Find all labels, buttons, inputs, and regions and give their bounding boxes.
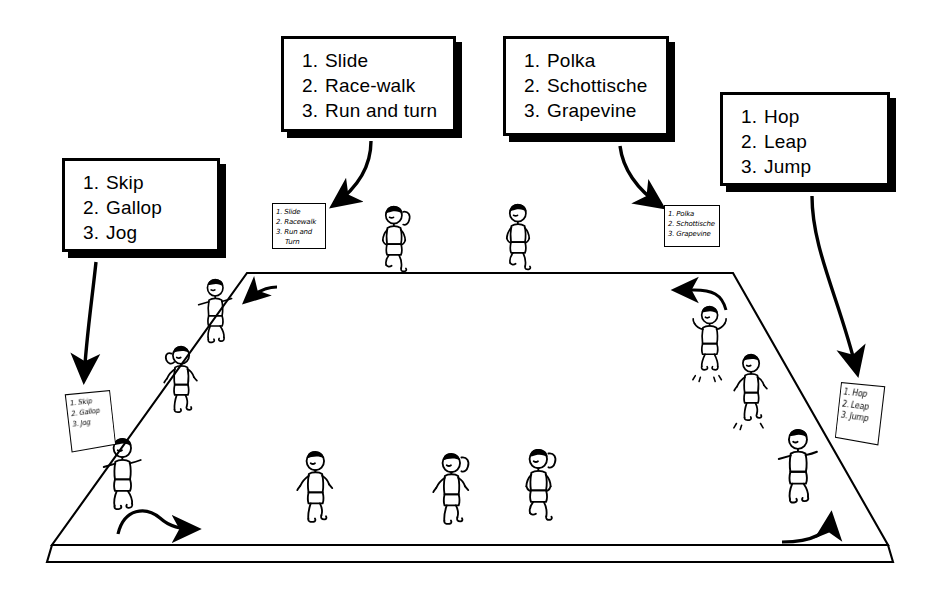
station-sign-back-right: 1. Polka 2. Schottische 3. Grapevine (664, 205, 720, 247)
callout-item-number: 3. (302, 98, 325, 123)
callout-skip-gallop-jog: 1. Skip 2. Gallop 3. Jog (62, 158, 220, 252)
callout-item-label: Race-walk (325, 73, 416, 98)
callout-polka-schottische-grapevine: 1. Polka 2. Schottische 3. Grapevine (503, 36, 669, 136)
station-sign-back-left: 1. Slide 2. Racewalk 3. Run and Turn (272, 203, 326, 249)
callout-item: 2. Leap (741, 129, 873, 154)
callout-item: 3. Run and turn (302, 98, 439, 123)
figure-back-right-running (507, 204, 531, 269)
callout-item-label: Grapevine (547, 98, 636, 123)
callout-item-number: 3. (524, 98, 547, 123)
callout-item-label: Leap (764, 129, 807, 154)
callout-item-number: 2. (83, 195, 106, 220)
callout-item: 1. Skip (83, 170, 203, 195)
figure-center-jogging (297, 451, 332, 522)
callout-hop-leap-jump: 1. Hop 2. Leap 3. Jump (720, 92, 890, 186)
callout-item: 1. Slide (302, 48, 439, 73)
figure-center-grapevine (526, 449, 555, 520)
callout-item: 3. Jump (741, 154, 873, 179)
callout-item: 2. Race-walk (302, 73, 439, 98)
callout-item: 3. Jog (83, 220, 203, 245)
figure-left-upper-skipping (199, 279, 232, 342)
callout-item-label: Jump (764, 154, 811, 179)
sign-line: 2. Racewalk (276, 217, 323, 227)
figure-right-lower-jumping (779, 429, 817, 502)
callout-item-label: Jog (106, 220, 137, 245)
sign-line: 3. Run and (276, 227, 323, 237)
figure-center-polka (433, 453, 468, 524)
callout-item: 1. Polka (524, 48, 652, 73)
callout-item: 2. Gallop (83, 195, 203, 220)
figure-back-left-racewalking (383, 206, 410, 271)
callout-item-number: 2. (741, 129, 764, 154)
callout-item-label: Polka (547, 48, 596, 73)
callout-item-label: Slide (325, 48, 368, 73)
callout-item-number: 3. (83, 220, 106, 245)
figure-left-lower-jogging (104, 438, 141, 509)
callout-item-number: 2. (302, 73, 325, 98)
callout-item-label: Schottische (547, 73, 647, 98)
station-sign-right: 1. Hop 2. Leap 3. Jump (835, 382, 885, 445)
sign-line: 3. Grapevine (668, 229, 717, 239)
callout-item-label: Gallop (106, 195, 162, 220)
sign-line: Turn (276, 237, 323, 247)
callout-item-number: 1. (741, 104, 764, 129)
callout-item: 1. Hop (741, 104, 873, 129)
callout-item-number: 1. (302, 48, 325, 73)
figure-left-middle-galloping (164, 346, 197, 412)
sign-line: 2. Schottische (668, 219, 717, 229)
callout-item-label: Run and turn (325, 98, 437, 123)
callout-item-label: Skip (106, 170, 144, 195)
callout-item-number: 1. (83, 170, 106, 195)
callout-item-number: 3. (741, 154, 764, 179)
sign-line: 1. Slide (276, 207, 323, 217)
station-sign-left: 1. Skip 2. Gallop 3. Jog (65, 390, 116, 453)
diagram-canvas: 1. Skip 2. Gallop 3. Jog 1. Slide 2. Rac… (0, 0, 932, 610)
callout-item-number: 1. (524, 48, 547, 73)
callout-slide-racewalk-runturn: 1. Slide 2. Race-walk 3. Run and turn (281, 36, 456, 132)
sign-line: 1. Polka (668, 209, 717, 219)
figure-right-middle-leaping (734, 354, 767, 429)
callout-item-number: 2. (524, 73, 547, 98)
callout-item: 2. Schottische (524, 73, 652, 98)
callout-item-label: Hop (764, 104, 799, 129)
figure-right-upper-hopping (693, 306, 726, 381)
callout-item: 3. Grapevine (524, 98, 652, 123)
